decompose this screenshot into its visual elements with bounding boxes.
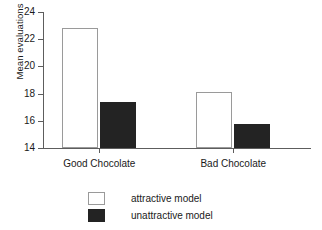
x-tick-mark <box>233 149 234 153</box>
x-axis-label-bad-chocolate: Bad Chocolate <box>173 158 293 169</box>
chart-legend: attractive modelunattractive model <box>88 190 213 224</box>
legend-label: attractive model <box>131 193 202 204</box>
y-tick-mark <box>38 148 43 149</box>
x-axis-label-good-chocolate: Good Chocolate <box>39 158 159 169</box>
x-axis-line <box>43 148 311 149</box>
legend-label: unattractive model <box>131 210 213 221</box>
y-tick-label: 14 <box>5 143 35 153</box>
y-tick-label: 18 <box>5 89 35 99</box>
y-tick-label: 24 <box>5 7 35 17</box>
bar-attractive-model-bad-chocolate <box>196 92 232 148</box>
legend-swatch-icon <box>88 192 105 205</box>
x-tick-mark <box>99 149 100 153</box>
y-tick-label: 16 <box>5 116 35 126</box>
bar-unattractive-model-bad-chocolate <box>234 124 270 148</box>
plot-area <box>43 12 311 148</box>
legend-item: attractive model <box>88 190 213 207</box>
y-tick-label: 22 <box>5 34 35 44</box>
legend-swatch-icon <box>88 209 105 222</box>
bar-unattractive-model-good-chocolate <box>100 102 136 148</box>
legend-item: unattractive model <box>88 207 213 224</box>
bar-attractive-model-good-chocolate <box>62 28 98 148</box>
y-tick-label: 20 <box>5 61 35 71</box>
bar-chart: Mean evaluations 242220181614 Good Choco… <box>0 0 322 230</box>
